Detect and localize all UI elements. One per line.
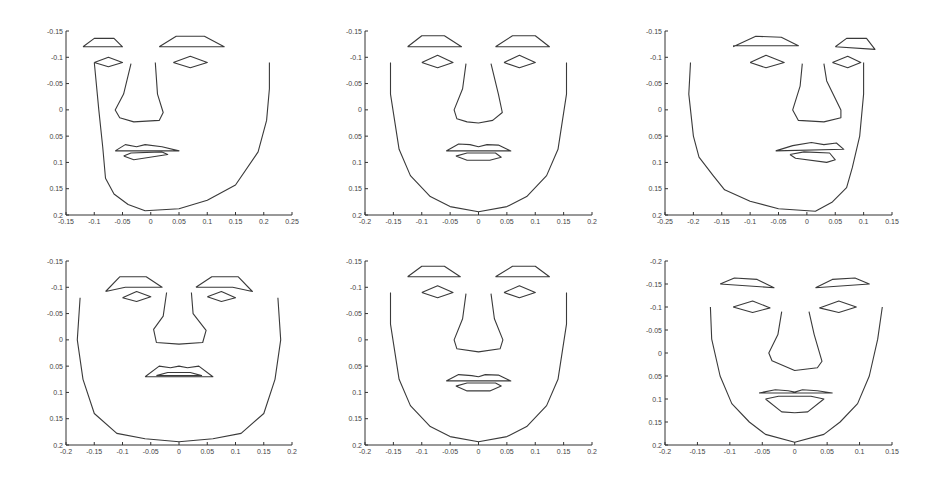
y-tick-label: 0.1 xyxy=(352,159,362,166)
face-plot-bottom-center: -0.2-0.15-0.1-0.0500.050.10.150.2-0.15-0… xyxy=(346,258,597,456)
y-tick-label: -0.1 xyxy=(650,304,662,311)
face-plot-top-left: -0.15-0.1-0.0500.050.10.150.20.25-0.15-0… xyxy=(47,28,299,226)
face-plot-top-right: -0.25-0.2-0.15-0.1-0.0500.050.10.15-0.15… xyxy=(646,28,899,226)
y-tick-label: -0.05 xyxy=(47,310,63,317)
x-tick-label: 0 xyxy=(793,448,797,455)
face-right-brow xyxy=(496,266,550,277)
y-tick-label: 0.1 xyxy=(352,389,362,396)
x-tick-label: -0.15 xyxy=(86,448,102,455)
y-tick-label: 0.2 xyxy=(53,212,63,219)
y-tick-label: 0.1 xyxy=(652,396,662,403)
x-tick-label: -0.15 xyxy=(58,218,74,225)
x-tick-label: 0.1 xyxy=(231,448,241,455)
face-right-eye xyxy=(819,301,856,313)
face-right-brow xyxy=(496,36,550,47)
x-tick-label: -0.1 xyxy=(416,218,428,225)
face-left-eye xyxy=(123,292,151,302)
y-tick-label: -0.1 xyxy=(350,284,362,291)
face-lower-lip xyxy=(456,383,501,391)
y-tick-label: 0.1 xyxy=(53,389,63,396)
face-jaw xyxy=(77,298,280,442)
y-tick-label: 0.2 xyxy=(652,442,662,449)
x-tick-label: -0.15 xyxy=(714,218,730,225)
face-left-brow xyxy=(106,277,163,292)
x-tick-label: 0.05 xyxy=(172,218,186,225)
y-tick-label: -0.15 xyxy=(646,281,662,288)
axis-lines xyxy=(665,31,892,215)
face-shape-figure: -0.15-0.1-0.0500.050.10.150.20.25-0.15-0… xyxy=(0,0,940,486)
x-tick-label: 0.1 xyxy=(855,448,865,455)
y-tick-label: 0.05 xyxy=(49,133,63,140)
x-tick-label: 0.05 xyxy=(500,448,514,455)
y-tick-label: -0.05 xyxy=(346,80,362,87)
axis-lines xyxy=(365,261,592,445)
y-tick-label: -0.15 xyxy=(346,28,362,35)
face-plot-top-center: -0.2-0.15-0.1-0.0500.050.10.150.2-0.15-0… xyxy=(346,28,597,226)
y-tick-label: 0.15 xyxy=(348,185,362,192)
face-left-eye xyxy=(750,55,784,68)
y-tick-label: 0.2 xyxy=(53,442,63,449)
y-tick-label: 0.2 xyxy=(352,212,362,219)
face-right-brow xyxy=(816,278,870,288)
face-nose xyxy=(793,64,841,122)
y-tick-label: 0 xyxy=(658,350,662,357)
x-tick-label: -0.15 xyxy=(689,448,705,455)
x-tick-label: 0.2 xyxy=(587,218,597,225)
face-right-eye xyxy=(173,56,207,68)
face-nose xyxy=(769,312,822,371)
x-tick-label: 0 xyxy=(477,218,481,225)
x-tick-label: 0.05 xyxy=(820,448,834,455)
y-tick-label: 0.15 xyxy=(348,415,362,422)
x-tick-label: 0.1 xyxy=(202,218,212,225)
y-tick-label: -0.15 xyxy=(47,28,63,35)
x-tick-label: -0.1 xyxy=(416,448,428,455)
y-tick-label: -0.15 xyxy=(646,28,662,35)
y-tick-label: 0.15 xyxy=(648,419,662,426)
face-left-eye xyxy=(94,57,122,66)
face-upper-lip xyxy=(776,143,844,151)
y-tick-label: 0.05 xyxy=(49,363,63,370)
face-left-eye xyxy=(422,55,453,68)
y-tick-label: 0.05 xyxy=(348,133,362,140)
face-nose xyxy=(154,293,207,345)
face-jaw xyxy=(94,63,269,211)
face-right-eye xyxy=(504,55,535,68)
x-tick-label: -0.1 xyxy=(724,448,736,455)
x-tick-label: 0.25 xyxy=(285,218,299,225)
x-tick-label: -0.1 xyxy=(116,448,128,455)
x-tick-label: -0.2 xyxy=(60,448,72,455)
x-tick-label: 0.15 xyxy=(885,218,899,225)
x-tick-label: -0.2 xyxy=(659,448,671,455)
y-tick-label: 0.1 xyxy=(53,159,63,166)
y-tick-label: 0.2 xyxy=(352,442,362,449)
y-tick-label: -0.1 xyxy=(650,54,662,61)
x-tick-label: -0.05 xyxy=(771,218,787,225)
face-right-brow xyxy=(835,38,875,49)
face-jaw xyxy=(391,293,567,442)
y-tick-label: 0 xyxy=(59,336,63,343)
x-tick-label: 0.15 xyxy=(557,448,571,455)
x-tick-label: 0.05 xyxy=(500,218,514,225)
y-tick-label: -0.1 xyxy=(350,54,362,61)
face-jaw xyxy=(689,63,864,212)
y-tick-label: 0.1 xyxy=(652,159,662,166)
face-lower-lip xyxy=(156,373,201,376)
y-tick-label: 0.15 xyxy=(49,415,63,422)
x-tick-label: -0.2 xyxy=(359,218,371,225)
y-tick-label: 0.15 xyxy=(49,185,63,192)
x-tick-label: -0.05 xyxy=(143,448,159,455)
face-left-brow xyxy=(720,278,774,288)
x-tick-label: 0.15 xyxy=(885,448,899,455)
face-plot-bottom-left: -0.2-0.15-0.1-0.0500.050.10.150.2-0.15-0… xyxy=(47,258,297,456)
y-tick-label: 0.05 xyxy=(648,373,662,380)
y-tick-label: -0.05 xyxy=(646,327,662,334)
x-tick-label: -0.2 xyxy=(687,218,699,225)
x-tick-label: -0.15 xyxy=(385,218,401,225)
x-tick-label: -0.1 xyxy=(88,218,100,225)
face-right-brow xyxy=(159,36,224,47)
axis-lines xyxy=(665,261,892,445)
x-tick-label: 0 xyxy=(149,218,153,225)
x-tick-label: -0.2 xyxy=(359,448,371,455)
face-left-brow xyxy=(408,36,462,47)
face-jaw xyxy=(391,63,567,212)
